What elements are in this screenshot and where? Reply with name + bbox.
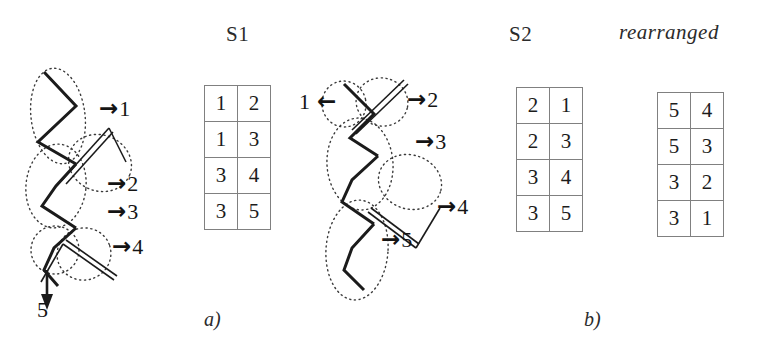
table-cell: 3 xyxy=(517,196,550,232)
table-rearranged: 5 4 5 3 3 2 3 1 xyxy=(657,92,724,237)
table-row: 1 2 xyxy=(205,86,271,122)
arrow-right-icon: → xyxy=(407,88,426,111)
table-s2-grid: 2 1 2 3 3 4 3 5 xyxy=(516,87,583,232)
table-row: 3 5 xyxy=(517,196,583,232)
table-cell: 3 xyxy=(658,201,691,237)
strand-marker-b-2-label: 2 xyxy=(427,89,438,111)
table-cell: 3 xyxy=(550,124,583,160)
table-cell: 5 xyxy=(238,194,271,230)
arrow-right-icon: → xyxy=(415,130,434,153)
table-cell: 3 xyxy=(517,160,550,196)
table-cell: 2 xyxy=(517,124,550,160)
arrow-left-icon: ← xyxy=(317,90,336,113)
table-cell: 3 xyxy=(205,194,238,230)
table-cell: 1 xyxy=(550,88,583,124)
table-row: 2 1 xyxy=(517,88,583,124)
table-row: 5 4 xyxy=(658,93,724,129)
table-cell: 1 xyxy=(205,122,238,158)
strand-marker-b-5-label: 5 xyxy=(401,229,412,251)
table-cell: 5 xyxy=(550,196,583,232)
strand-marker-b-3-label: 3 xyxy=(435,131,446,153)
table-row: 3 1 xyxy=(658,201,724,237)
arrow-right-icon: → xyxy=(381,228,400,251)
table-cell: 5 xyxy=(658,93,691,129)
table-cell: 3 xyxy=(238,122,271,158)
table-rearranged-title: rearranged xyxy=(619,20,719,45)
table-s2-title: S2 xyxy=(509,22,532,47)
table-cell: 2 xyxy=(517,88,550,124)
strand-marker-b-1: 1 ← xyxy=(299,90,336,113)
strand-marker-3: → 3 xyxy=(107,200,138,223)
table-cell: 3 xyxy=(658,165,691,201)
strand-marker-5-label: 5 xyxy=(37,297,48,323)
strand-marker-1: → 1 xyxy=(99,97,130,120)
arrow-right-icon: → xyxy=(107,172,126,195)
table-row: 3 2 xyxy=(658,165,724,201)
panel-label-a: a) xyxy=(204,308,221,331)
arrow-right-icon: → xyxy=(112,235,131,258)
strand-marker-1-label: 1 xyxy=(119,98,130,120)
arrow-right-icon: → xyxy=(437,195,456,218)
table-row: 5 3 xyxy=(658,129,724,165)
strand-marker-b-2: → 2 xyxy=(407,88,438,111)
strand-marker-2-label: 2 xyxy=(127,173,138,195)
strand-marker-b-3: → 3 xyxy=(415,130,446,153)
strand-marker-4-label: 4 xyxy=(132,236,143,258)
strand-marker-b-1-label: 1 xyxy=(299,91,310,113)
table-row: 3 5 xyxy=(205,194,271,230)
table-cell: 2 xyxy=(691,165,724,201)
table-cell: 4 xyxy=(550,160,583,196)
panel-label-b: b) xyxy=(584,308,601,331)
table-row: 3 4 xyxy=(205,158,271,194)
table-cell: 4 xyxy=(238,158,271,194)
table-row: 2 3 xyxy=(517,124,583,160)
table-cell: 2 xyxy=(238,86,271,122)
strand-marker-b-5: → 5 xyxy=(381,228,412,251)
figure-canvas: → 1 → 2 → 3 → 4 5 S1 1 2 1 3 xyxy=(0,0,769,350)
table-s2: 2 1 2 3 3 4 3 5 xyxy=(516,87,583,232)
table-rearranged-grid: 5 4 5 3 3 2 3 1 xyxy=(657,92,724,237)
strand-marker-b-4-label: 4 xyxy=(457,196,468,218)
table-cell: 4 xyxy=(691,93,724,129)
table-s1-title: S1 xyxy=(226,22,249,47)
strand-marker-4: → 4 xyxy=(112,235,143,258)
arrow-right-icon: → xyxy=(107,200,126,223)
table-row: 1 3 xyxy=(205,122,271,158)
table-s1: 1 2 1 3 3 4 3 5 xyxy=(204,85,271,230)
table-cell: 1 xyxy=(691,201,724,237)
table-cell: 5 xyxy=(658,129,691,165)
table-s1-grid: 1 2 1 3 3 4 3 5 xyxy=(204,85,271,230)
table-row: 3 4 xyxy=(517,160,583,196)
strand-marker-2: → 2 xyxy=(107,172,138,195)
table-cell: 3 xyxy=(691,129,724,165)
arrow-right-icon: → xyxy=(99,97,118,120)
table-cell: 1 xyxy=(205,86,238,122)
strand-marker-3-label: 3 xyxy=(127,201,138,223)
strand-marker-b-4: → 4 xyxy=(437,195,468,218)
table-cell: 3 xyxy=(205,158,238,194)
